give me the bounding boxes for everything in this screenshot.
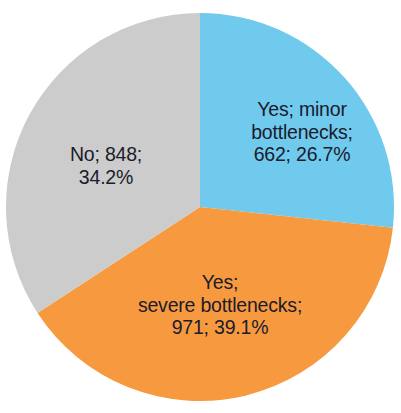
pie-slice-0	[200, 13, 394, 228]
pie-slice-group	[6, 13, 394, 401]
pie-chart-canvas	[0, 0, 401, 413]
pie-chart-figure: Yes; minor bottlenecks; 662; 26.7% Yes; …	[0, 0, 401, 413]
